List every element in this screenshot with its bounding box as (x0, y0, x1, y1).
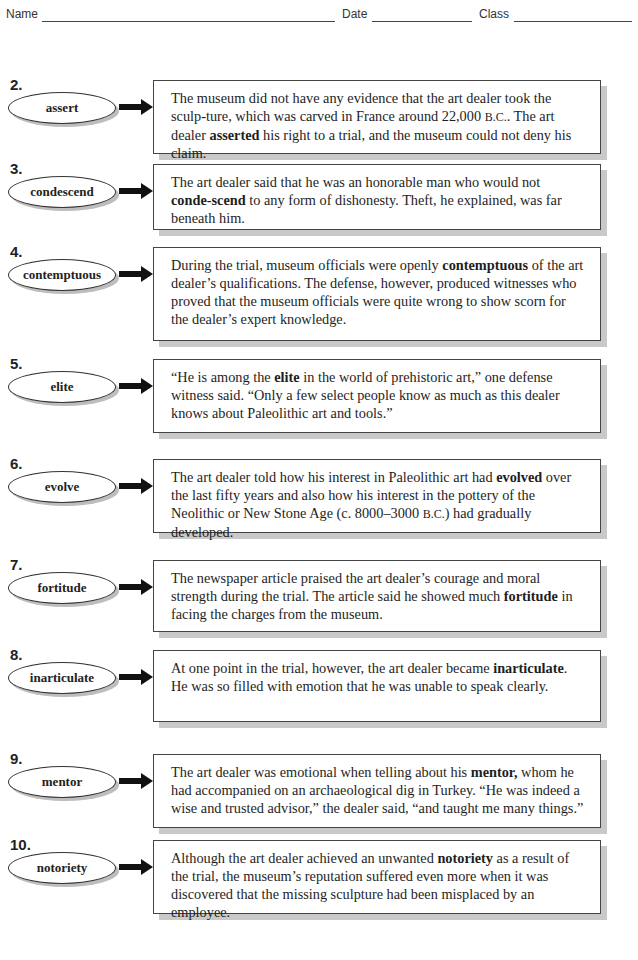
sentence-box: Although the art dealer achieved an unwa… (153, 840, 601, 914)
vocab-word-oval: evolve (8, 471, 116, 503)
vocab-word: fortitude (37, 580, 86, 596)
arrow-right-icon (119, 99, 153, 115)
vocab-word-oval: inarticulate (8, 662, 116, 694)
vocab-word-oval: fortitude (8, 572, 116, 604)
vocab-word: evolve (45, 479, 80, 495)
vocab-word-highlight: inarticulate (493, 660, 564, 676)
vocab-word-oval: notoriety (8, 852, 116, 884)
item-number: 6. (10, 455, 23, 472)
vocab-word-highlight: evolved (496, 469, 542, 485)
vocab-word: condescend (30, 184, 94, 200)
arrow-right-icon (119, 478, 153, 494)
vocab-word: mentor (42, 774, 82, 790)
class-label: Class (479, 7, 509, 21)
sentence-box: The art dealer was emotional when tellin… (153, 754, 601, 828)
item-number: 2. (10, 76, 23, 93)
item-number: 5. (10, 355, 23, 372)
sentence-box: The museum did not have any evidence tha… (153, 80, 601, 154)
vocab-word-oval: condescend (8, 176, 116, 208)
arrow-right-icon (119, 669, 153, 685)
sentence-box: “He is among the elite in the world of p… (153, 359, 601, 433)
vocab-word-highlight: mentor, (471, 764, 518, 780)
item-number: 7. (10, 556, 23, 573)
sentence-box: At one point in the trial, however, the … (153, 650, 601, 722)
vocab-word: assert (46, 100, 79, 116)
arrow-right-icon (119, 183, 153, 199)
name-field-line[interactable] (42, 21, 335, 22)
name-label: Name (6, 7, 38, 21)
vocab-word-highlight: asserted (210, 127, 260, 143)
arrow-right-icon (119, 773, 153, 789)
arrow-right-icon (119, 266, 153, 282)
sentence-box: The art dealer said that he was an honor… (153, 164, 601, 230)
vocab-word: inarticulate (30, 670, 94, 686)
vocab-word-oval: mentor (8, 766, 116, 798)
vocab-word-oval: contemptuous (8, 259, 116, 291)
date-label: Date (342, 7, 367, 21)
vocab-word-oval: assert (8, 92, 116, 124)
arrow-right-icon (119, 859, 153, 875)
vocab-word: elite (50, 379, 73, 395)
sentence-box: The newspaper article praised the art de… (153, 560, 601, 632)
arrow-right-icon (119, 378, 153, 394)
vocab-word: contemptuous (23, 267, 101, 283)
vocab-word: notoriety (37, 860, 88, 876)
item-number: 10. (10, 836, 31, 853)
sentence-box: During the trial, museum officials were … (153, 247, 601, 341)
class-field-line[interactable] (514, 21, 632, 22)
arrow-right-icon (119, 579, 153, 595)
sentence-box: The art dealer told how his interest in … (153, 459, 601, 533)
vocab-word-highlight: fortitude (504, 588, 558, 604)
date-field-line[interactable] (372, 21, 472, 22)
vocab-word-highlight: conde-scend (171, 192, 246, 208)
vocab-word-highlight: contemptuous (442, 257, 528, 273)
item-number: 4. (10, 243, 23, 260)
vocab-word-highlight: elite (274, 369, 299, 385)
vocab-word-oval: elite (8, 371, 116, 403)
vocab-word-highlight: notoriety (437, 850, 493, 866)
worksheet-header: Name Date Class (0, 7, 638, 27)
item-number: 3. (10, 160, 23, 177)
item-number: 8. (10, 646, 23, 663)
item-number: 9. (10, 750, 23, 767)
